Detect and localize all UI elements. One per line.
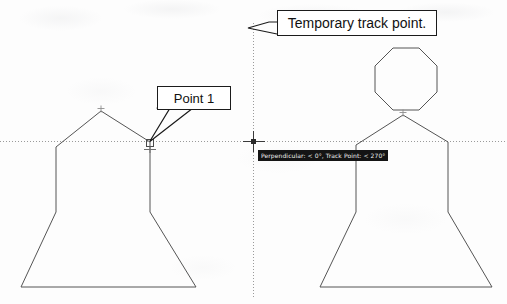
track-callout-label: Temporary track point.	[288, 16, 427, 30]
bell-figure-without-head[interactable]	[21, 111, 196, 287]
point1-callout-label: Point 1	[174, 92, 214, 105]
tracking-crosshair-marker	[243, 131, 265, 152]
cad-drawing-canvas[interactable]: Point 1 Temporary track point. Perpendic…	[0, 0, 507, 304]
drawing-vector-layer	[0, 0, 507, 304]
point1-callout-box[interactable]: Point 1	[157, 86, 231, 110]
node-snap-marker-right	[400, 110, 407, 117]
snap-tracking-tooltip: Perpendicular: < 0°, Track Point: < 270°	[258, 150, 388, 161]
point1-callout-leader	[150, 108, 193, 141]
node-snap-marker-left	[98, 106, 105, 113]
octagon-head[interactable]	[375, 48, 437, 110]
track-callout-leader	[248, 22, 277, 34]
bell-figure-with-octagon-head[interactable]	[320, 115, 492, 287]
track-callout-box[interactable]: Temporary track point.	[277, 10, 437, 36]
